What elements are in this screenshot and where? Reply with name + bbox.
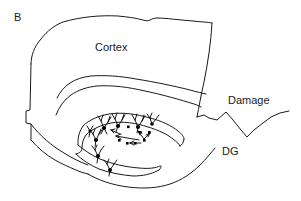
migrating-cell-dot xyxy=(126,142,129,145)
migration-arrow xyxy=(144,133,150,139)
cortex-inner-band-lower xyxy=(56,86,201,115)
cortex-inner-band-upper xyxy=(57,76,206,98)
dg-upper-blade-tip xyxy=(180,139,184,146)
label-dg: DG xyxy=(222,145,239,157)
migration-arrow xyxy=(111,129,120,134)
neuron-glyph xyxy=(87,126,93,137)
neuron-glyph xyxy=(90,129,102,147)
tissue-lower-left-inner xyxy=(31,124,88,165)
schematic-drawing: B Cortex Damage DG xyxy=(0,0,301,201)
tissue-left-edge xyxy=(26,64,31,140)
label-damage: Damage xyxy=(228,94,270,106)
label-cortex: Cortex xyxy=(95,41,128,53)
migrating-cell-dot xyxy=(143,139,146,142)
migration-arrow xyxy=(138,131,144,139)
damage-boundary-line xyxy=(197,111,289,137)
neuron-glyph xyxy=(147,113,159,126)
dg-upper-blade-inner xyxy=(86,122,180,146)
cortex-outline xyxy=(31,16,212,64)
panel-label: B xyxy=(14,11,21,23)
migrating-cell-dot xyxy=(127,126,130,129)
cortex-right-edge xyxy=(197,23,212,117)
figure-panel-b: B Cortex Damage DG xyxy=(0,0,301,201)
migrating-cell-dot xyxy=(118,139,121,142)
